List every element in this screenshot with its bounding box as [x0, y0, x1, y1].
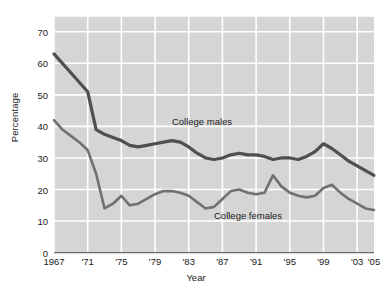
x-tick-label: '05	[368, 256, 380, 267]
chart-figure: 010203040506070 1967'71'75'79'83'87'91'9…	[0, 0, 392, 291]
x-tick-label: '91	[250, 256, 262, 267]
y-tick-label: 20	[14, 184, 48, 195]
x-tick-label: '87	[216, 256, 228, 267]
y-axis-title: Percentage	[9, 78, 20, 158]
x-tick-label: 1967	[43, 256, 64, 267]
x-tick-label: '79	[149, 256, 161, 267]
x-tick-label: '99	[317, 256, 329, 267]
y-tick-label: 70	[14, 26, 48, 37]
x-axis-title: Year	[0, 272, 392, 283]
x-tick-label: '95	[284, 256, 296, 267]
series-label-college-females: College females	[214, 210, 282, 221]
series-label-college-males: College males	[172, 116, 232, 127]
x-tick-label: '71	[81, 256, 93, 267]
x-tick-label: '03	[351, 256, 363, 267]
x-tick-label: '83	[183, 256, 195, 267]
chart-plot-svg	[0, 0, 392, 291]
x-tick-label: '75	[115, 256, 127, 267]
y-tick-label: 60	[14, 58, 48, 69]
y-tick-label: 10	[14, 216, 48, 227]
